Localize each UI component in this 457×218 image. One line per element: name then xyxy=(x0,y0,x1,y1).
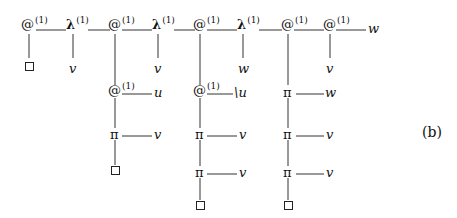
app-node: @(1) xyxy=(108,84,135,99)
variable-label: v xyxy=(326,166,333,180)
variable-label: v xyxy=(154,62,161,76)
variable-label: v xyxy=(326,128,333,142)
variable-label: v xyxy=(239,166,246,180)
variable-label: v xyxy=(69,62,76,76)
variable-label: v xyxy=(239,128,246,142)
pi-node: π xyxy=(283,166,292,180)
app-node: @(1) xyxy=(281,18,308,33)
app-node: @(1) xyxy=(21,18,48,33)
variable-label: v xyxy=(326,62,333,76)
variable-label: w xyxy=(238,62,249,76)
pi-node: π xyxy=(283,128,292,142)
app-node: @(1) xyxy=(323,18,350,33)
lambda-node: λ(1) xyxy=(237,18,260,33)
app-node: @(1) xyxy=(108,18,135,33)
lambda-node: λ(1) xyxy=(152,18,175,33)
figure-tag: (b) xyxy=(422,124,442,140)
lambda-node: λ(1) xyxy=(66,18,89,33)
pi-node: π xyxy=(195,128,204,142)
app-node: @(1) xyxy=(193,18,220,33)
variable-label: u xyxy=(154,86,162,100)
hole-box-icon xyxy=(196,201,205,210)
variable-label: v xyxy=(154,128,161,142)
hole-box-icon xyxy=(111,166,120,175)
pi-node: π xyxy=(283,86,292,100)
hole-box-icon xyxy=(284,201,293,210)
hole-box-icon xyxy=(25,62,34,71)
pi-node: π xyxy=(195,166,204,180)
variable-label: w xyxy=(325,86,336,100)
pi-node: π xyxy=(110,128,119,142)
app-node: @(1) xyxy=(193,84,220,99)
variable-label: \u xyxy=(234,86,247,100)
variable-label: w xyxy=(368,22,379,36)
